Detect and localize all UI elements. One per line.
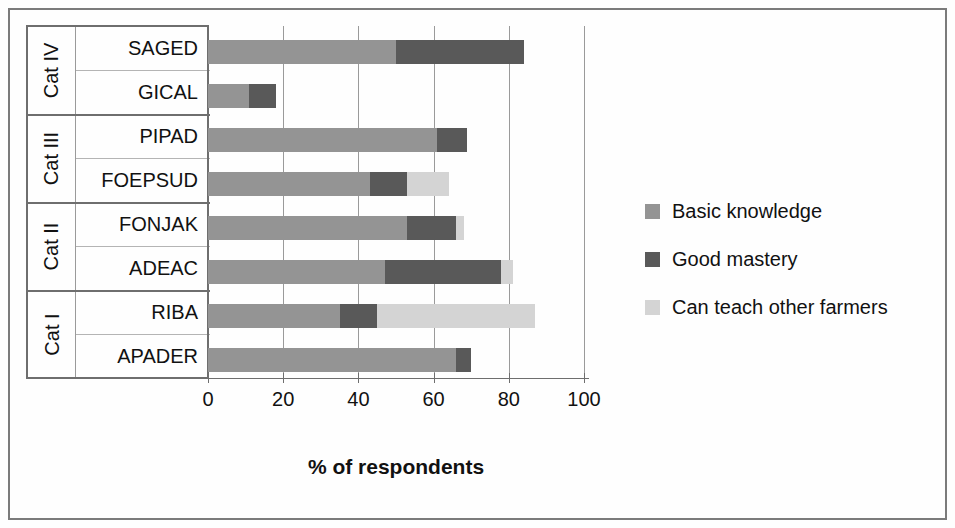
legend-swatch-good-mastery <box>645 252 660 267</box>
row-label-gical: GICAL <box>76 70 204 114</box>
row-label-riba: RIBA <box>76 290 204 334</box>
gridline <box>584 26 585 378</box>
bar-segment-basic-knowledge <box>208 172 370 196</box>
bar-segment-basic-knowledge <box>208 348 456 372</box>
category-group-label: Cat III <box>41 131 64 184</box>
legend-swatch-basic-knowledge <box>645 204 660 219</box>
bar-segment-good-mastery <box>370 172 408 196</box>
bar-row <box>208 216 584 240</box>
category-group-label: Cat IV <box>41 42 64 98</box>
bar-row <box>208 348 584 372</box>
bar-segment-can-teach-other-farmers <box>456 216 464 240</box>
bar-segment-basic-knowledge <box>208 128 437 152</box>
x-tick-label: 80 <box>498 388 520 411</box>
category-group-divider <box>28 114 210 116</box>
bar-row <box>208 260 584 284</box>
category-group-label: Cat II <box>40 222 63 270</box>
category-group-cell: Cat II <box>28 202 76 290</box>
bar-row <box>208 40 584 64</box>
x-tick <box>584 373 585 383</box>
category-group-label: Cat I <box>41 313 64 355</box>
row-label-apader: APADER <box>76 334 204 378</box>
category-label-table: SAGEDGICALPIPADFOEPSUDFONJAKADEACRIBAAPA… <box>26 25 208 379</box>
bar-segment-basic-knowledge <box>208 260 385 284</box>
x-axis-title: % of respondents <box>208 455 584 479</box>
bar-segment-can-teach-other-farmers <box>407 172 448 196</box>
legend-item-can-teach-other-farmers: Can teach other farmers <box>645 296 935 319</box>
legend-label-can-teach-other-farmers: Can teach other farmers <box>672 296 888 319</box>
x-tick-label: 20 <box>272 388 294 411</box>
bar-segment-basic-knowledge <box>208 40 396 64</box>
row-label-foepsud: FOEPSUD <box>76 158 204 202</box>
x-tick-label: 40 <box>347 388 369 411</box>
bar-row <box>208 128 584 152</box>
plot-area <box>208 26 584 378</box>
legend-item-basic-knowledge: Basic knowledge <box>645 200 935 223</box>
bar-segment-good-mastery <box>456 348 471 372</box>
bar-row <box>208 84 584 108</box>
category-group-cell: Cat IV <box>28 26 76 114</box>
x-tick <box>358 373 359 383</box>
chart-figure: SAGEDGICALPIPADFOEPSUDFONJAKADEACRIBAAPA… <box>0 0 955 528</box>
bar-segment-good-mastery <box>340 304 378 328</box>
x-tick-label: 100 <box>567 388 600 411</box>
x-tick <box>208 373 209 383</box>
row-label-adeac: ADEAC <box>76 246 204 290</box>
bar-segment-basic-knowledge <box>208 216 407 240</box>
legend-item-good-mastery: Good mastery <box>645 248 935 271</box>
bar-segment-good-mastery <box>437 128 467 152</box>
category-group-cell: Cat I <box>28 290 76 378</box>
category-group-divider <box>28 202 210 204</box>
bar-segment-good-mastery <box>396 40 524 64</box>
legend-label-good-mastery: Good mastery <box>672 248 798 271</box>
bar-segment-good-mastery <box>249 84 275 108</box>
x-tick <box>509 373 510 383</box>
bar-segment-good-mastery <box>407 216 456 240</box>
legend-swatch-can-teach-other-farmers <box>645 300 660 315</box>
x-tick-label: 0 <box>202 388 213 411</box>
category-group-cell: Cat III <box>28 114 76 202</box>
legend-label-basic-knowledge: Basic knowledge <box>672 200 822 223</box>
x-axis-line <box>204 378 589 379</box>
bar-row <box>208 172 584 196</box>
bar-segment-basic-knowledge <box>208 304 340 328</box>
x-tick <box>283 373 284 383</box>
row-label-fonjak: FONJAK <box>76 202 204 246</box>
x-tick <box>434 373 435 383</box>
row-label-pipad: PIPAD <box>76 114 204 158</box>
category-group-divider <box>28 290 210 292</box>
bar-segment-can-teach-other-farmers <box>501 260 512 284</box>
bar-segment-basic-knowledge <box>208 84 249 108</box>
legend: Basic knowledge Good mastery Can teach o… <box>645 200 935 344</box>
bar-row <box>208 304 584 328</box>
row-label-saged: SAGED <box>76 26 204 70</box>
x-tick-label: 60 <box>422 388 444 411</box>
bar-segment-good-mastery <box>385 260 502 284</box>
bar-segment-can-teach-other-farmers <box>377 304 535 328</box>
